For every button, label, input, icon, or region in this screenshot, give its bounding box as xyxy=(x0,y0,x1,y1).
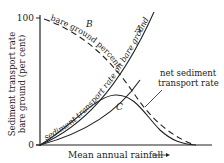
net-leader-line xyxy=(145,90,162,107)
curve-a-letter: A xyxy=(134,24,142,34)
curve-a-text: sediment transport rate on bare ground xyxy=(43,16,151,142)
curve-b-letter: B xyxy=(85,19,93,29)
arrow-head-icon xyxy=(166,153,170,157)
net-label-line1: net sediment xyxy=(160,68,217,78)
y-tick-label-100: 100 xyxy=(17,13,34,23)
y-tick-label-0: 0 xyxy=(28,140,34,150)
y-axis-label: Sediment transport rate xyxy=(7,32,17,136)
chart: 100 0 Sediment transport rate bare groun… xyxy=(0,0,224,163)
net-label-line2: transport rate xyxy=(158,78,219,88)
y-axis-label-2: bare ground (per cent) xyxy=(17,35,27,134)
x-axis-label: Mean annual rainfall xyxy=(68,150,163,160)
curve-c-letter: C xyxy=(116,102,123,112)
